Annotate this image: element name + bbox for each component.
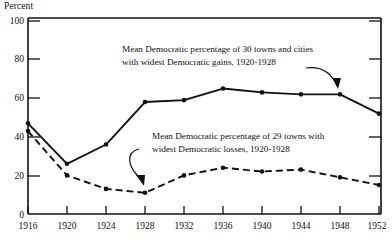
data-point-marker — [65, 162, 70, 167]
data-point-marker — [143, 100, 148, 105]
annotation-losses-arrowhead — [136, 175, 145, 186]
data-point-marker — [26, 129, 31, 134]
data-point-marker — [26, 121, 31, 126]
data-point-marker — [299, 92, 304, 97]
x-tick-label-1948: 1948 — [331, 221, 350, 231]
x-tick-label-1916: 1916 — [19, 221, 38, 231]
annotation-losses-line2: widest Democratic losses, 1920-1928 — [152, 144, 290, 154]
y-axis-tick-labels: 100 80 60 40 20 0 — [10, 16, 25, 220]
data-point-marker — [104, 142, 109, 147]
line-chart: 100 80 60 40 20 0 1916 1920 1924 1928 19… — [0, 0, 392, 240]
data-point-marker — [221, 165, 226, 170]
x-tick-label-1928: 1928 — [136, 221, 155, 231]
y-axis-title: Percent — [4, 1, 33, 11]
x-tick-label-1940: 1940 — [253, 221, 272, 231]
x-tick-label-1932: 1932 — [175, 221, 194, 231]
x-tick-label-1952: 1952 — [368, 221, 387, 231]
data-point-marker — [377, 111, 382, 116]
data-point-marker — [377, 183, 382, 188]
data-point-marker — [182, 173, 187, 178]
right-axis-ticks — [369, 21, 381, 176]
y-tick-label-0: 0 — [19, 210, 24, 220]
y-tick-label-60: 60 — [15, 93, 25, 103]
data-point-marker — [338, 175, 343, 180]
x-axis-ticks — [28, 206, 379, 214]
x-tick-label-1924: 1924 — [97, 221, 116, 231]
x-tick-label-1936: 1936 — [214, 221, 233, 231]
data-point-marker — [221, 86, 226, 91]
annotation-gains-line2: with widest Democratic gains, 1920-1928 — [122, 57, 276, 67]
data-point-marker — [338, 92, 343, 97]
annotation-gains: Mean Democratic percentage of 30 towns a… — [122, 44, 341, 89]
y-tick-label-40: 40 — [15, 132, 25, 142]
y-tick-label-80: 80 — [15, 54, 25, 64]
x-axis-tick-labels: 1916 1920 1924 1928 1932 1936 1940 1944 … — [19, 221, 387, 231]
annotation-gains-leader-line — [306, 68, 337, 86]
annotation-gains-arrowhead — [333, 78, 341, 89]
chart-figure: Percent — [0, 0, 392, 240]
y-axis-ticks — [28, 21, 40, 176]
annotation-losses: Mean Democratic percentage of 29 towns w… — [130, 131, 325, 186]
series-gains — [26, 86, 382, 166]
x-tick-label-1944: 1944 — [292, 221, 311, 231]
x-tick-label-1920: 1920 — [58, 221, 77, 231]
data-point-marker — [143, 190, 148, 195]
y-tick-label-20: 20 — [15, 171, 25, 181]
data-point-marker — [104, 187, 109, 192]
data-point-marker — [65, 173, 70, 178]
data-point-marker — [260, 169, 265, 174]
annotation-gains-line1: Mean Democratic percentage of 30 towns a… — [122, 44, 314, 54]
data-point-marker — [182, 98, 187, 103]
data-point-marker — [299, 167, 304, 172]
y-tick-label-100: 100 — [10, 16, 25, 26]
annotation-losses-line1: Mean Democratic percentage of 29 towns w… — [152, 131, 325, 141]
data-point-marker — [260, 90, 265, 95]
